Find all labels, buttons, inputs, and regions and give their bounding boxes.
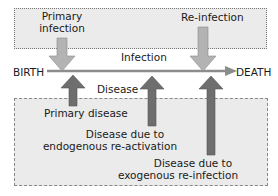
re-infection-arrow [190,27,216,71]
exogenous-reinfection-label: Disease due to exogenous re-infection [108,157,248,181]
exogenous-line2: exogenous re-infection [108,169,248,181]
primary-disease-label: Primary disease [44,107,128,119]
primary-infection-line1: Primary [22,10,102,22]
endogenous-reactivation-label: Disease due to endogenous re-activation [40,128,180,152]
endogenous-line1: Disease due to [40,128,180,140]
exogenous-reinfection-arrow [199,76,223,155]
re-infection-label: Re-infection [181,11,244,23]
exogenous-line1: Disease due to [108,157,248,169]
death-label: DEATH [236,66,271,78]
primary-infection-line2: infection [22,22,102,34]
endogenous-reactivation-arrow [140,76,164,126]
infection-region-label: Infection [121,51,167,63]
disease-region-label: Disease [97,83,138,95]
timeline-arrow [47,66,237,76]
birth-label: BIRTH [13,66,44,78]
endogenous-line2: endogenous re-activation [40,140,180,152]
primary-disease-arrow [61,75,85,106]
primary-infection-arrow [49,38,75,71]
primary-infection-label: Primary infection [22,10,102,34]
